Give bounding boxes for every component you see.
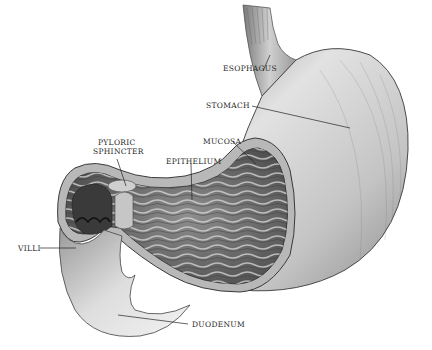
label-pyloric: PYLORIC xyxy=(98,138,136,147)
label-esophagus: ESOPHAGUS xyxy=(223,64,277,73)
anatomy-figure: ESOPHAGUS STOMACH MUCOSA PYLORIC SPHINCT… xyxy=(0,0,432,350)
label-duodenum: DUODENUM xyxy=(192,320,245,329)
pyloric-sphincter xyxy=(108,180,136,192)
label-mucosa: MUCOSA xyxy=(203,137,241,146)
label-villi: VILLI xyxy=(18,244,41,253)
label-epithelium: EPITHELIUM xyxy=(166,157,221,166)
label-stomach: STOMACH xyxy=(206,101,250,110)
label-sphincter: SPHINCTER xyxy=(93,147,144,156)
stomach-illustration xyxy=(0,0,432,350)
